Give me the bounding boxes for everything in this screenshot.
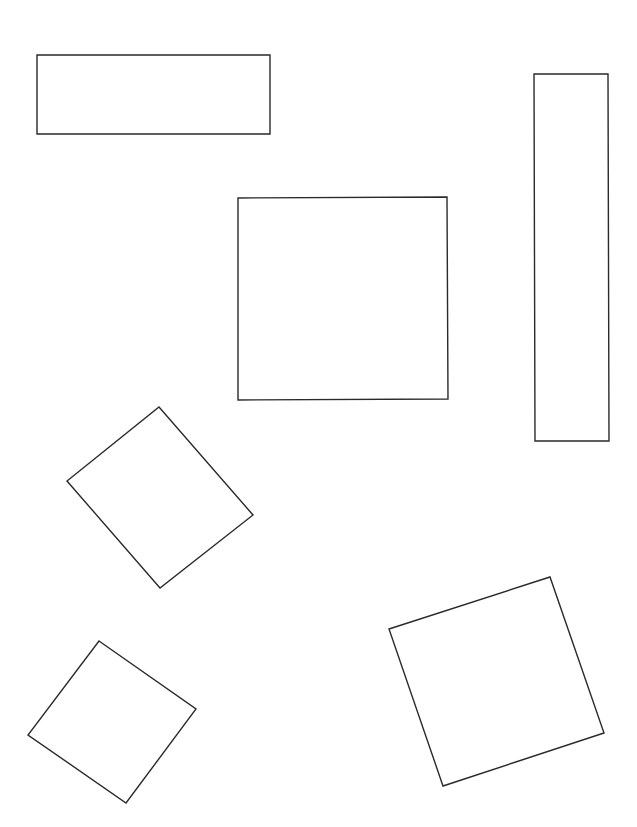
rotated-square-bottom-left (28, 641, 196, 803)
rotated-square-middle-left (67, 407, 253, 588)
diagram-canvas (0, 0, 637, 827)
rotated-square-bottom-right (389, 577, 604, 786)
wide-rectangle (37, 55, 270, 134)
tall-rectangle (534, 74, 609, 441)
center-square (238, 197, 448, 400)
